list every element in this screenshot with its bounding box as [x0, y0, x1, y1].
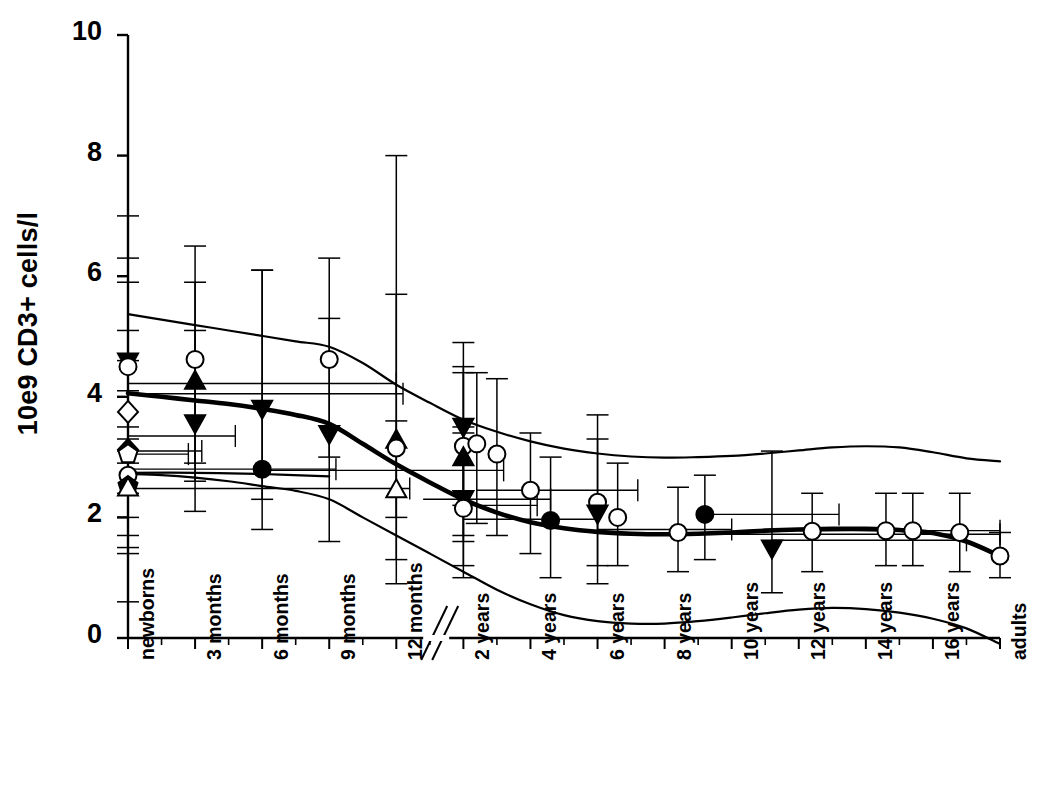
- marker-open-circle: [522, 482, 539, 499]
- figure-root: 10e9 CD3+ cells/l 0246810 newborns3 mont…: [0, 0, 1042, 795]
- error-bar-horizontal: [128, 458, 336, 480]
- error-bar-vertical: [385, 156, 407, 584]
- marker-open-circle: [609, 509, 626, 526]
- marker-open-circle: [877, 522, 894, 539]
- marker-open-circle: [388, 440, 405, 457]
- error-bar-horizontal: [128, 477, 410, 499]
- marker-filled-up-triangle: [185, 371, 205, 389]
- marker-filled-down-triangle: [185, 415, 205, 433]
- error-bar-vertical: [761, 451, 783, 593]
- marker-filled-down-triangle: [588, 506, 608, 524]
- marker-open-circle: [951, 524, 968, 541]
- chart-canvas: [0, 0, 1042, 795]
- axis-break-slash: [421, 606, 447, 660]
- marker-filled-circle: [542, 512, 559, 529]
- marker-open-diamond: [118, 401, 138, 423]
- marker-open-circle: [455, 500, 472, 517]
- marker-filled-down-triangle: [453, 419, 473, 437]
- marker-open-circle: [468, 435, 485, 452]
- error-bars-layer: [117, 156, 1011, 602]
- marker-open-circle: [992, 547, 1009, 564]
- reference-curve-upper-percentile: [128, 314, 1000, 461]
- axes-layer: [117, 35, 1000, 649]
- axis-break-icon: [421, 606, 458, 660]
- marker-filled-circle: [696, 506, 713, 523]
- marker-filled-circle: [254, 461, 271, 478]
- reference-curves-layer: [128, 314, 1000, 644]
- error-bar-horizontal: [128, 440, 202, 462]
- marker-open-circle: [321, 351, 338, 368]
- marker-open-circle: [187, 351, 204, 368]
- axis-break-slash: [432, 606, 458, 660]
- marker-open-circle: [670, 524, 687, 541]
- axis-break-mask: [423, 635, 449, 641]
- marker-open-circle: [488, 446, 505, 463]
- error-bar-horizontal: [477, 479, 638, 501]
- marker-open-circle: [804, 523, 821, 540]
- marker-filled-down-triangle: [762, 541, 782, 559]
- marker-filled-down-triangle: [319, 426, 339, 444]
- marker-open-circle: [120, 358, 137, 375]
- marker-open-circle: [904, 522, 921, 539]
- error-bar-horizontal: [128, 425, 235, 447]
